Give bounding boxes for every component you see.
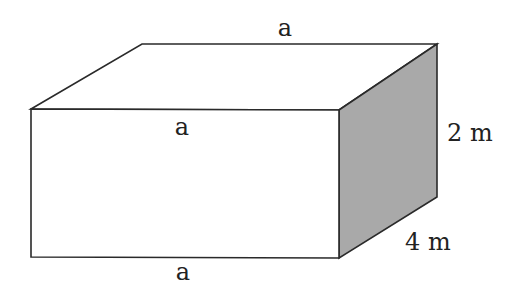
label-height: 2 m xyxy=(447,119,493,147)
prism-diagram: a a a 2 m 4 m xyxy=(0,0,525,296)
label-front-top-edge: a xyxy=(175,113,189,141)
label-top-back-edge: a xyxy=(278,14,292,42)
label-depth: 4 m xyxy=(405,228,451,256)
label-front-bottom-edge: a xyxy=(176,258,190,286)
